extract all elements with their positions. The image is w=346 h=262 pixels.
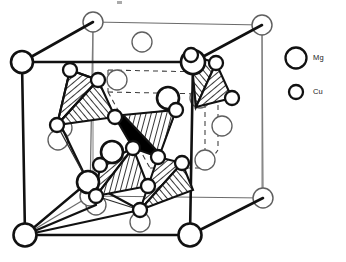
cu-tetrahedron-center	[115, 110, 176, 157]
cu-atom	[91, 73, 105, 87]
legend-label-cu: Cu	[313, 87, 323, 96]
mg-atom-front-top-left	[11, 51, 33, 73]
mg-atom-front-bottom-left	[14, 224, 37, 247]
cu-atom	[141, 179, 155, 193]
legend	[286, 48, 307, 100]
cu-atom	[63, 63, 77, 77]
cu-atom	[93, 158, 107, 172]
legend-label-mg: Mg	[313, 53, 324, 62]
cu-atom	[126, 141, 140, 155]
mg-atom-back	[107, 70, 127, 90]
crystal-structure-figure	[0, 0, 346, 262]
cu-atom	[151, 150, 165, 164]
cu-atom	[175, 156, 189, 170]
cu-atom	[225, 91, 239, 105]
cu-atom	[184, 48, 198, 62]
cu-atom	[108, 110, 122, 124]
cu-atom	[133, 203, 147, 217]
cu-atom	[169, 103, 183, 117]
mg-atom-back	[132, 32, 152, 52]
mg-atom-front-bottom-right	[179, 224, 202, 247]
cu-tetrahedron-upper-left	[57, 70, 115, 125]
cu-atom	[50, 118, 64, 132]
cu-atom	[89, 189, 103, 203]
mg-atom-back	[195, 150, 215, 170]
mg-atom-back	[212, 116, 232, 136]
legend-cu-icon	[289, 85, 303, 99]
cu-atom	[209, 56, 223, 70]
legend-mg-icon	[286, 48, 307, 69]
